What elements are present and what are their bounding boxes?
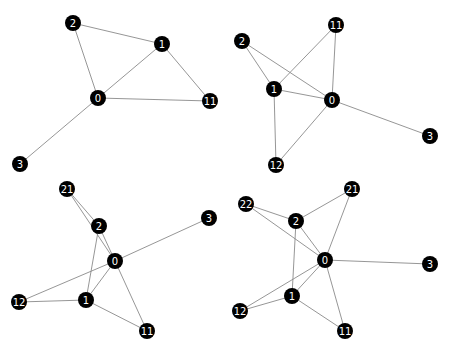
graph-panel-top-right: 01231112 (234, 17, 438, 173)
node-3: 3 (201, 210, 217, 226)
node-1: 1 (284, 288, 300, 304)
edge-0-3 (325, 260, 430, 264)
node-label: 1 (159, 39, 165, 50)
node-11: 11 (139, 323, 155, 339)
node-label: 0 (322, 255, 328, 266)
node-label: 21 (346, 184, 359, 195)
edge-0-3 (332, 100, 430, 136)
edge-1-11 (162, 44, 210, 101)
node-label: 12 (270, 160, 283, 171)
node-label: 1 (289, 291, 295, 302)
edge-12-1 (240, 296, 292, 311)
node-1: 1 (266, 81, 282, 97)
edge-12-0 (276, 100, 332, 165)
edge-21-0 (325, 189, 352, 260)
edges (240, 189, 430, 331)
graph-panel-bottom-left: 0123111221 (11, 181, 217, 339)
node-21: 21 (59, 181, 75, 197)
edge-0-11 (115, 261, 147, 331)
node-2: 2 (65, 15, 81, 31)
node-2: 2 (234, 33, 250, 49)
node-label: 1 (83, 295, 89, 306)
edge-2-1 (86, 226, 99, 300)
node-0: 0 (90, 90, 106, 106)
node-label: 11 (330, 20, 343, 31)
edge-0-11 (325, 260, 345, 331)
node-label: 3 (427, 131, 433, 142)
graph-panel-top-left: 012311 (12, 15, 218, 172)
edge-11-0 (332, 25, 336, 100)
node-0: 0 (107, 253, 123, 269)
node-label: 1 (271, 84, 277, 95)
edge-0-3 (20, 98, 98, 164)
edge-2-1 (242, 41, 274, 89)
node-11: 11 (337, 323, 353, 339)
node-label: 2 (96, 221, 102, 232)
node-2: 2 (288, 213, 304, 229)
edge-0-3 (115, 218, 209, 261)
node-label: 11 (339, 326, 352, 337)
edge-0-11 (98, 98, 210, 101)
edge-21-0 (67, 189, 115, 261)
node-label: 22 (240, 199, 253, 210)
node-1: 1 (154, 36, 170, 52)
node-label: 12 (13, 297, 26, 308)
edge-0-12 (240, 260, 325, 311)
edge-22-0 (246, 204, 325, 260)
edge-2-1 (73, 23, 162, 44)
node-21: 21 (344, 181, 360, 197)
node-12: 12 (232, 303, 248, 319)
node-label: 3 (427, 259, 433, 270)
node-12: 12 (268, 157, 284, 173)
node-12: 12 (11, 294, 27, 310)
edge-1-12 (274, 89, 276, 165)
graph-canvas: 012311 01231112 0123111221 012311122122 (0, 0, 453, 352)
node-3: 3 (422, 128, 438, 144)
node-label: 0 (112, 256, 118, 267)
node-label: 2 (293, 216, 299, 227)
edge-2-0 (73, 23, 98, 98)
node-label: 2 (70, 18, 76, 29)
node-22: 22 (238, 196, 254, 212)
node-2: 2 (91, 218, 107, 234)
edges (20, 23, 210, 164)
node-label: 3 (206, 213, 212, 224)
edge-12-1 (19, 300, 86, 302)
node-label: 0 (95, 93, 101, 104)
node-0: 0 (324, 92, 340, 108)
node-label: 0 (329, 95, 335, 106)
node-3: 3 (422, 256, 438, 272)
edge-2-21 (296, 189, 352, 221)
node-1: 1 (78, 292, 94, 308)
node-label: 11 (141, 326, 154, 337)
node-3: 3 (12, 156, 28, 172)
node-label: 2 (239, 36, 245, 47)
node-label: 3 (17, 159, 23, 170)
node-label: 11 (204, 96, 217, 107)
edge-1-0 (98, 44, 162, 98)
node-11: 11 (328, 17, 344, 33)
node-11: 11 (202, 93, 218, 109)
graph-panel-bottom-right: 012311122122 (232, 181, 438, 339)
edge-2-1 (292, 221, 296, 296)
node-label: 12 (234, 306, 247, 317)
edge-1-11 (274, 25, 336, 89)
node-label: 21 (61, 184, 74, 195)
edge-0-12 (19, 261, 115, 302)
edge-1-11 (86, 300, 147, 331)
node-0: 0 (317, 252, 333, 268)
